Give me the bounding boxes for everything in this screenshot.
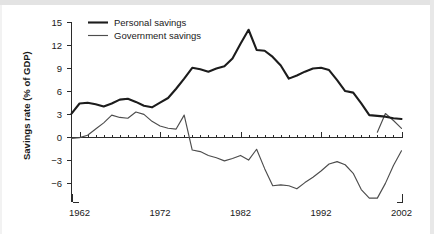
y-tick-label-6: 6 (57, 86, 62, 97)
y-axis-title: Savings rate (% of GDP) (21, 51, 32, 160)
y-tick-label-0: 0 (57, 132, 62, 143)
x-axis-major-ticks (73, 132, 403, 202)
x-tick-label-1992: 1992 (310, 207, 331, 218)
legend-label-government-savings: Government savings (114, 30, 201, 41)
legend-label-personal-savings: Personal savings (114, 17, 187, 28)
series-line-government-savings (72, 112, 402, 198)
y-tick-label-9: 9 (57, 63, 62, 74)
y-tick-label-15: 15 (51, 17, 62, 28)
y-axis (67, 22, 72, 202)
x-tick-label-2002: 2002 (391, 207, 412, 218)
x-tick-label-1972: 1972 (149, 207, 170, 218)
y-tick-label-neg3: −3 (51, 155, 62, 166)
y-tick-label-12: 12 (51, 40, 62, 51)
y-tick-label-neg6: −6 (51, 178, 62, 189)
chart-figure: 15 12 9 6 3 0 −3 −6 Savings rate (% of G… (0, 0, 434, 234)
y-tick-labels: 15 12 9 6 3 0 −3 −6 (51, 17, 62, 189)
savings-rate-line-chart: 15 12 9 6 3 0 −3 −6 Savings rate (% of G… (0, 0, 434, 234)
x-tick-label-1962: 1962 (69, 207, 90, 218)
x-tick-labels: 1962 1972 1982 1992 2002 (69, 207, 412, 218)
x-tick-label-1982: 1982 (230, 207, 251, 218)
series-line-personal-savings (72, 30, 402, 119)
y-tick-label-3: 3 (57, 109, 62, 120)
chart-legend: Personal savings Government savings (88, 17, 201, 41)
